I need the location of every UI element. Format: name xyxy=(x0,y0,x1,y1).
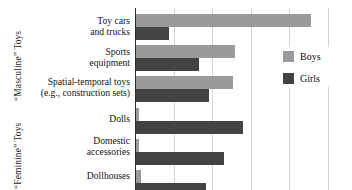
legend-label-girls: Girls xyxy=(300,73,320,84)
bar-dollhouses-girls xyxy=(136,183,206,190)
category-axis: Toy cars and trucks Sports equipment Spa… xyxy=(16,0,133,190)
plot-area xyxy=(135,0,352,190)
bar-dolls-girls xyxy=(136,121,243,134)
legend-swatch-boys-icon xyxy=(283,51,294,62)
bar-toy-cars-and-trucks-girls xyxy=(136,27,169,40)
gridline-4 xyxy=(289,8,290,190)
category-label-dollhouses: Dollhouses xyxy=(16,170,130,181)
category-label-toy-cars-and-trucks: Toy cars and trucks xyxy=(16,15,130,38)
gridline-3 xyxy=(251,8,252,190)
bar-chart: “Masculine” Toys “Feminine” Toys Toy car… xyxy=(0,0,352,190)
axis-group-label-feminine: “Feminine” Toys xyxy=(0,104,14,190)
legend: Boys Girls xyxy=(283,47,343,87)
bar-domestic-accessories-boys xyxy=(136,139,139,152)
bar-sports-equipment-girls xyxy=(136,58,199,71)
category-label-domestic-accessories: Domestic accessories xyxy=(16,135,130,158)
legend-swatch-girls-icon xyxy=(283,73,294,84)
bar-toy-cars-and-trucks-boys xyxy=(136,14,311,27)
bar-domestic-accessories-girls xyxy=(136,152,224,165)
gridline-5 xyxy=(328,8,329,190)
legend-label-boys: Boys xyxy=(300,51,321,62)
legend-item-girls: Girls xyxy=(283,71,320,85)
bar-dolls-boys xyxy=(136,108,139,121)
bar-spatial-temporal-toys-e-g-construction-sets-boys xyxy=(136,76,233,89)
bar-sports-equipment-boys xyxy=(136,45,235,58)
category-label-dolls: Dolls xyxy=(16,113,130,124)
bar-dollhouses-boys xyxy=(136,170,141,183)
bar-spatial-temporal-toys-e-g-construction-sets-girls xyxy=(136,89,209,102)
category-label-spatial-temporal-toys: Spatial-temporal toys (e.g., constructio… xyxy=(16,76,130,99)
axis-group-label-masculine: “Masculine” Toys xyxy=(0,0,14,104)
category-label-sports-equipment: Sports equipment xyxy=(16,46,130,69)
legend-item-boys: Boys xyxy=(283,49,321,63)
